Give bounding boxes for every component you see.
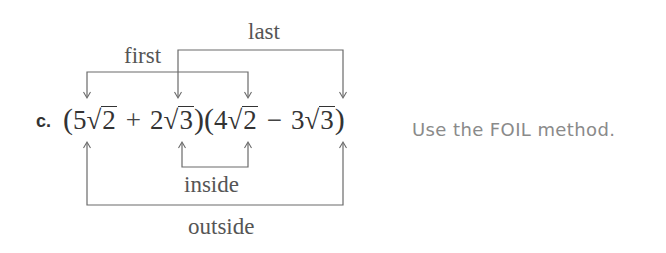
radical-sign-icon: √ [87, 107, 102, 134]
term-3-root-3: 3 √ 3 [291, 106, 335, 135]
radical: √ 3 [304, 106, 334, 135]
label-first: first [124, 44, 161, 67]
last-bracket [175, 50, 347, 98]
open-paren: ( [63, 104, 73, 134]
label-outside: outside [188, 215, 254, 238]
radical-sign-icon: √ [304, 107, 319, 134]
radicand: 3 [319, 106, 335, 135]
coefficient: 2 [150, 107, 164, 134]
label-last: last [248, 20, 280, 43]
term-2-root-3: 2 √ 3 [150, 106, 194, 135]
close-paren: ) [194, 104, 204, 134]
close-paren: ) [335, 104, 345, 134]
term-4-root-2: 4 √ 2 [214, 106, 258, 135]
plus-operator: + [126, 107, 141, 134]
first-bracket [84, 72, 252, 98]
math-expression: ( 5 √ 2 + 2 √ 3 ) ( 4 √ 2 − [63, 104, 345, 135]
radical-sign-icon: √ [164, 107, 179, 134]
foil-diagram: first last inside outside c. ( 5 √ 2 + 2… [0, 0, 666, 253]
open-paren: ( [204, 104, 214, 134]
radical: √ 2 [227, 106, 257, 135]
coefficient: 5 [73, 107, 87, 134]
term-5-root-2: 5 √ 2 [73, 106, 117, 135]
foil-hint: Use the FOIL method. [412, 121, 615, 139]
coefficient: 3 [291, 107, 305, 134]
coefficient: 4 [214, 107, 228, 134]
label-inside: inside [184, 173, 239, 196]
radical-sign-icon: √ [227, 107, 242, 134]
minus-operator: − [267, 107, 282, 134]
item-letter: c. [36, 112, 51, 130]
radical: √ 3 [164, 106, 194, 135]
radical: √ 2 [87, 106, 117, 135]
radicand: 3 [178, 106, 194, 135]
inside-bracket [179, 142, 252, 167]
radicand: 2 [242, 106, 258, 135]
radicand: 2 [101, 106, 117, 135]
